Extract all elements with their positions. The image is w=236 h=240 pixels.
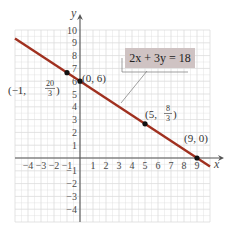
- point-label-5-8-3: (5,: [145, 108, 157, 121]
- x-tick-label: 2: [104, 160, 109, 171]
- x-tick-label: 3: [117, 160, 122, 171]
- y-tick-label: 5: [72, 89, 77, 100]
- y-tick-label: 9: [72, 37, 77, 48]
- point-label-paren: ): [173, 108, 177, 121]
- data-point: [194, 155, 199, 160]
- y-tick-label: −3: [66, 191, 77, 202]
- fraction-denominator: 3: [166, 114, 170, 123]
- y-tick-label: 3: [72, 114, 77, 125]
- fraction-numerator: 8: [166, 104, 170, 113]
- axes: [15, 14, 224, 222]
- x-tick-label: 9: [195, 160, 200, 171]
- y-tick-label: −2: [66, 178, 77, 189]
- point-label-neg1-20-3: (−1,: [8, 84, 26, 97]
- x-tick-label: 1: [91, 160, 96, 171]
- callout-leader-line: [121, 71, 147, 103]
- point-label-9-0: (9, 0): [184, 132, 208, 145]
- x-tick-label: −2: [49, 160, 60, 171]
- x-tick-label: 7: [169, 160, 174, 171]
- y-tick-label: 1: [72, 140, 77, 151]
- point-label-0-6: (0, 6): [82, 72, 106, 85]
- y-axis-label: y: [70, 6, 77, 20]
- x-tick-label: 8: [182, 160, 187, 171]
- y-tick-label: −1: [66, 165, 77, 176]
- fraction-20-3: 20 3: [45, 79, 55, 98]
- y-tick-label: −4: [66, 204, 77, 215]
- data-point: [64, 70, 69, 75]
- y-tick-label: 7: [72, 63, 77, 74]
- point-label-paren: ): [56, 84, 60, 97]
- data-point: [142, 121, 147, 126]
- x-tick-label: 4: [130, 160, 135, 171]
- y-tick-label: 8: [72, 50, 77, 61]
- fraction-denominator: 3: [48, 89, 52, 98]
- y-tick-label: 10: [67, 25, 77, 36]
- y-tick-label: 4: [72, 101, 77, 112]
- x-axis-label: x: [213, 157, 220, 171]
- x-tick-label: 5: [143, 160, 148, 171]
- y-tick-label: 2: [72, 127, 77, 138]
- fraction-numerator: 20: [46, 79, 54, 88]
- coordinate-plane: −4−3−2−1123456789−4−3−2−112345678910 2x …: [0, 0, 236, 240]
- x-tick-label: 6: [156, 160, 161, 171]
- x-tick-label: −3: [36, 160, 47, 171]
- x-tick-label: −4: [23, 160, 34, 171]
- equation-label: 2x + 3y = 18: [129, 51, 191, 65]
